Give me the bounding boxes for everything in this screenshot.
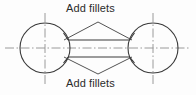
add-fillets-note-bottom: Add fillets [66,77,115,89]
drawing-canvas: Add fillets Add fillets [0,0,196,95]
top-leader-line [64,22,132,40]
bottom-leader-line [64,57,132,74]
add-fillets-note-top: Add fillets [66,2,115,14]
